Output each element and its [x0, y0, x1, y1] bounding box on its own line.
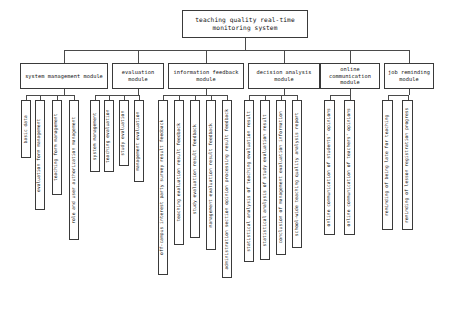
root-node: teaching quality real-time monitoring sy…: [182, 10, 308, 38]
leaf-node-5-2: online communication of teachers' opinio…: [344, 100, 355, 235]
leaf-node-label: online communication of teachers' opinio…: [347, 108, 352, 226]
connector-line-vertical: [350, 50, 351, 63]
leaf-node-2-1: system management: [90, 100, 100, 172]
leaf-node-1-3: teaching form management: [52, 100, 62, 195]
leaf-node-label: statistical analysis of teaching evaluat…: [247, 111, 252, 252]
leaf-node-label: off-campus interest party survey result …: [161, 120, 166, 255]
module-node-1: system management module: [20, 63, 108, 89]
leaf-node-5-1: online communication of students' opinio…: [324, 100, 335, 235]
connector-line-vertical: [245, 38, 246, 50]
leaf-node-label: administration section opinion processin…: [225, 109, 230, 270]
leaf-node-4-4: school-wide teaching quality analysis re…: [292, 100, 302, 248]
leaf-node-4-2: statistical analysis of study evaluation…: [260, 100, 270, 260]
leaf-node-1-4: role and user authorization management: [69, 100, 79, 240]
leaf-node-label: teaching evaluation: [107, 109, 112, 163]
connector-line-horizontal: [64, 50, 409, 51]
module-node-6: job reminding module: [384, 63, 434, 89]
leaf-node-label: school-wide teaching quality analysis re…: [295, 112, 300, 236]
leaf-node-3-4: management evaluation result feedback: [206, 100, 216, 250]
leaf-node-label: management evaluation result feedback: [209, 123, 214, 227]
connector-line-horizontal: [249, 95, 297, 96]
leaf-node-4-1: statistical analysis of teaching evaluat…: [244, 100, 254, 262]
leaf-node-label: reminding of being late for teaching: [385, 114, 390, 215]
leaf-node-2-4: management evaluation: [134, 100, 144, 182]
module-node-4: decision analysis module: [248, 63, 320, 89]
connector-line-vertical: [284, 50, 285, 63]
connector-line-vertical: [409, 50, 410, 63]
connector-line-vertical: [138, 50, 139, 63]
connector-line-horizontal: [388, 95, 408, 96]
leaf-node-label: teaching evaluation result feedback: [177, 123, 182, 222]
leaf-node-3-5: administration section opinion processin…: [222, 100, 232, 278]
leaf-node-1-2: evaluation form management: [35, 100, 45, 210]
leaf-node-2-3: study evaluation: [119, 100, 129, 166]
org-chart-diagram: teaching quality real-time monitoring sy…: [0, 0, 450, 316]
leaf-node-3-3: study evaluation result feedback: [190, 100, 200, 238]
leaf-node-label: study evaluation: [122, 110, 127, 155]
leaf-node-2-2: teaching evaluation: [104, 100, 114, 172]
connector-line-vertical: [64, 50, 65, 63]
leaf-node-label: evaluation form management: [38, 118, 43, 191]
module-node-5: online communication module: [320, 63, 380, 89]
leaf-node-6-2: reminding of lesson registration progres…: [402, 100, 413, 230]
leaf-node-label: system management: [93, 112, 98, 160]
connector-line-horizontal: [330, 95, 350, 96]
connector-line-horizontal: [26, 95, 74, 96]
leaf-node-label: study evaluation result feedback: [193, 124, 198, 214]
module-node-2: evaluation module: [112, 63, 164, 89]
leaf-node-label: statistical analysis of study evaluation…: [263, 114, 268, 246]
leaf-node-label: conclusion of management evaluation info…: [279, 111, 284, 243]
leaf-node-label: teaching form management: [55, 114, 60, 182]
connector-line-horizontal: [95, 95, 139, 96]
leaf-node-6-1: reminding of being late for teaching: [382, 100, 393, 230]
leaf-node-3-1: off-campus interest party survey result …: [158, 100, 168, 275]
leaf-node-1-1: basic data: [21, 100, 31, 158]
leaf-node-label: management evaluation: [137, 111, 142, 170]
leaf-node-label: role and user authorization management: [72, 117, 77, 224]
leaf-node-label: basic data: [24, 115, 29, 143]
module-node-3: information feedback module: [168, 63, 244, 89]
leaf-node-3-2: teaching evaluation result feedback: [174, 100, 184, 245]
connector-line-vertical: [206, 50, 207, 63]
leaf-node-4-3: conclusion of management evaluation info…: [276, 100, 286, 255]
leaf-node-label: reminding of lesson registration progres…: [405, 107, 410, 222]
connector-line-vertical: [409, 89, 410, 95]
leaf-node-label: online communication of students' opinio…: [327, 108, 332, 226]
